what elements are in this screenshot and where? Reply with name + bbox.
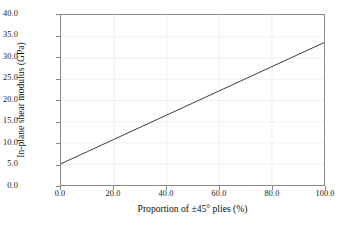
x-axis-title: Proportion of ±45° plies (%) xyxy=(60,203,325,214)
x-tick-label: 100.0 xyxy=(315,189,334,198)
y-tick-mark xyxy=(56,57,60,58)
x-tick-mark xyxy=(219,186,220,190)
x-tick-label: 40.0 xyxy=(159,189,174,198)
y-tick-mark xyxy=(56,165,60,166)
x-tick-mark xyxy=(272,186,273,190)
y-tick-mark xyxy=(56,36,60,37)
x-tick-mark xyxy=(166,186,167,190)
x-tick-mark xyxy=(325,186,326,190)
y-tick-mark xyxy=(56,100,60,101)
x-tick-mark xyxy=(113,186,114,190)
x-tick-label: 60.0 xyxy=(212,189,227,198)
y-tick-mark xyxy=(56,79,60,80)
y-tick-mark xyxy=(56,14,60,15)
x-tick-label: 80.0 xyxy=(265,189,280,198)
y-axis-title: In-plane shear modulus (GPa) xyxy=(14,14,28,186)
y-tick-mark xyxy=(56,122,60,123)
x-tick-label: 20.0 xyxy=(106,189,121,198)
x-tick-mark xyxy=(60,186,61,190)
data-series-line xyxy=(61,15,324,185)
y-tick-mark xyxy=(56,143,60,144)
x-tick-label: 0.0 xyxy=(55,189,66,198)
plot-area xyxy=(60,14,325,186)
chart-figure: 0.05.010.015.020.025.030.035.040.0 0.020… xyxy=(0,0,351,227)
